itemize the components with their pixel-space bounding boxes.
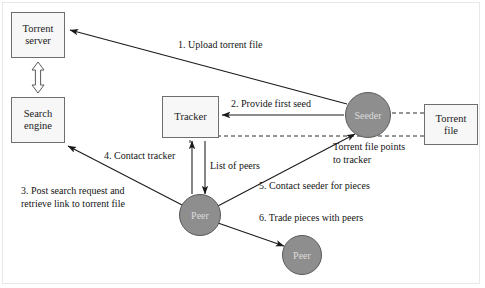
node-peer-2-label: Peer xyxy=(293,250,311,261)
node-tracker-label: Tracker xyxy=(174,111,206,123)
node-search-engine-label: Search engine xyxy=(24,108,53,132)
bittorrent-workflow-diagram: Torrent server Search engine Tracker Tor… xyxy=(0,0,485,288)
label-step-3: 3. Post search request and retrieve link… xyxy=(21,185,125,210)
node-tracker[interactable]: Tracker xyxy=(162,96,219,138)
node-peer-1[interactable]: Peer xyxy=(179,194,221,236)
label-step-4: 4. Contact tracker xyxy=(104,150,175,163)
label-list-of-peers: List of peers xyxy=(210,160,260,173)
node-torrent-file[interactable]: Torrent file xyxy=(424,104,478,145)
edge-server-search-hollow-arrow xyxy=(32,62,44,93)
node-peer-1-label: Peer xyxy=(191,210,209,221)
label-torrent-file-points-to-tracker: Torrent file points to tracker xyxy=(333,141,405,166)
node-torrent-server[interactable]: Torrent server xyxy=(11,12,65,58)
node-torrent-file-label: Torrent file xyxy=(436,113,467,137)
node-seeder-label: Seeder xyxy=(354,110,381,121)
node-seeder[interactable]: Seeder xyxy=(345,92,391,138)
node-search-engine[interactable]: Search engine xyxy=(11,97,65,143)
label-step-6: 6. Trade pieces with peers xyxy=(259,212,363,225)
label-step-5: 5. Contact seeder for pieces xyxy=(259,180,370,193)
node-torrent-server-label: Torrent server xyxy=(23,23,54,47)
label-step-1: 1. Upload torrent file xyxy=(178,39,262,52)
edge-peer-to-peer xyxy=(218,223,284,246)
node-peer-2[interactable]: Peer xyxy=(282,235,322,275)
label-step-2: 2. Provide first seed xyxy=(231,98,311,111)
